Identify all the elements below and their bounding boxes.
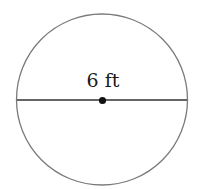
center-dot [99, 97, 106, 104]
circle-diagram: 6 ft [0, 0, 200, 189]
diameter-label: 6 ft [87, 69, 120, 91]
